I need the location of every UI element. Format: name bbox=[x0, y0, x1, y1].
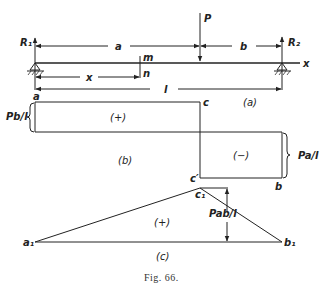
panel-b-label: (b) bbox=[118, 155, 132, 166]
shear-positive-region bbox=[35, 102, 282, 178]
moment-triangle bbox=[35, 188, 282, 242]
shear-negative-sign: (−) bbox=[233, 150, 249, 161]
section-n-label: n bbox=[143, 68, 150, 79]
dim-b-label: b bbox=[240, 41, 247, 52]
dim-l-label: l bbox=[164, 84, 168, 95]
section-m-label: m bbox=[143, 52, 153, 63]
load-p-label: P bbox=[204, 13, 212, 24]
vertex-a1-label: a₁ bbox=[23, 237, 34, 248]
vertex-b1-label: b₁ bbox=[284, 237, 296, 248]
panel-b-shear-diagram: a c c′ b (+) (−) (b) Pb/l Pa/l bbox=[6, 91, 319, 192]
left-brace-icon bbox=[27, 103, 34, 132]
dim-x-label: x bbox=[85, 72, 93, 83]
reaction-right-label: R₂ bbox=[288, 37, 301, 48]
beam-figure: x R₁ R₂ P a b m n bbox=[0, 0, 325, 288]
corner-a-label: a bbox=[33, 91, 40, 102]
corner-b-label: b bbox=[275, 181, 282, 192]
panel-c-moment-diagram: Pab/l a₁ c₁ b₁ (+) (c) bbox=[23, 188, 296, 262]
reaction-left-label: R₁ bbox=[20, 37, 32, 48]
moment-positive-sign: (+) bbox=[154, 217, 170, 228]
corner-c-prime-label: c′ bbox=[190, 173, 199, 184]
corner-c-label: c bbox=[203, 97, 209, 108]
panel-a-label: (a) bbox=[243, 97, 257, 108]
axis-x-label: x bbox=[302, 58, 310, 69]
panel-a-beam-diagram: x R₁ R₂ P a b m n bbox=[20, 13, 310, 108]
right-magnitude-label: Pa/l bbox=[298, 150, 319, 161]
peak-magnitude-label: Pab/l bbox=[209, 208, 237, 219]
shear-positive-sign: (+) bbox=[110, 112, 126, 123]
left-magnitude-label: Pb/l bbox=[6, 111, 28, 122]
figure-caption: Fig. 66. bbox=[144, 272, 179, 283]
right-brace-icon bbox=[283, 133, 290, 178]
panel-c-label: (c) bbox=[156, 251, 169, 262]
vertex-c1-label: c₁ bbox=[195, 189, 205, 200]
dim-a-label: a bbox=[115, 41, 122, 52]
